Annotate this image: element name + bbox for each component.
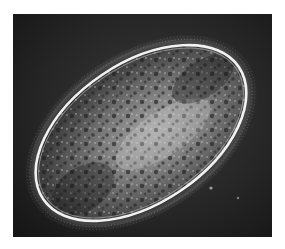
micrograph — [13, 14, 272, 237]
ciliate-illustration — [13, 14, 272, 237]
